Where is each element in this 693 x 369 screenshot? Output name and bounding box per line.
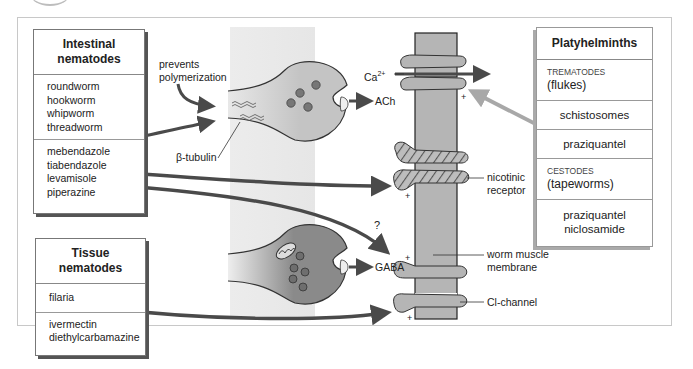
- list-item: levamisole: [47, 172, 144, 186]
- trematode-drug-item: praziquantel: [537, 130, 652, 159]
- intestinal-nematodes-title: Intestinal nematodes: [34, 30, 144, 75]
- list-item: tiabendazole: [47, 159, 144, 173]
- intestinal-worm-list: roundworm hookworm whipworm threadworm: [34, 75, 144, 140]
- ach-label: ACh: [375, 95, 395, 108]
- tissue-nematodes-box: Tissue nematodes filaria ivermectin diet…: [35, 238, 146, 356]
- list-item: roundworm: [47, 80, 144, 94]
- intestinal-nematodes-box: Intestinal nematodes roundworm hookworm …: [33, 29, 145, 214]
- tissue-nematodes-title: Tissue nematodes: [36, 239, 145, 284]
- list-item: hookworm: [47, 94, 144, 108]
- beta-tubulin-label: β-tubulin: [176, 151, 216, 164]
- cestodes-section: CESTODES (tapeworms): [537, 159, 652, 200]
- plus-sign: +: [405, 190, 410, 203]
- nicotinic-receptor-label: nicotinic receptor: [487, 171, 526, 197]
- ivermectin-arrow: [105, 308, 385, 319]
- tissue-drug-list: ivermectin diethylcarbamazine: [36, 313, 145, 355]
- trematodes-section: TREMATODES (flukes): [537, 60, 652, 101]
- tissue-worm-list: filaria: [36, 284, 145, 313]
- list-item: piperazine: [47, 186, 144, 200]
- gaba-neuron: [228, 225, 347, 304]
- prevents-polymerization-label: prevents polymerization: [159, 58, 227, 84]
- plus-sign: +: [405, 252, 410, 265]
- list-item: praziquantel: [537, 208, 652, 222]
- muscle-membrane: [394, 33, 469, 319]
- schistosomes-item: schistosomes: [537, 101, 652, 130]
- calcium-label: Ca2+: [364, 67, 385, 84]
- platyhelminths-title: Platyhelminths: [537, 28, 652, 60]
- list-item: whipworm: [47, 107, 144, 121]
- plus-sign: +: [461, 91, 466, 104]
- list-item: ivermectin: [49, 318, 145, 332]
- cestode-drug-list: praziquantel niclosamide: [537, 200, 652, 246]
- list-item: mebendazole: [47, 145, 144, 159]
- intestinal-drug-list: mebendazole tiabendazole levamisole pipe…: [34, 140, 144, 213]
- plus-sign: +: [407, 312, 412, 325]
- platyhelminths-box: Platyhelminths TREMATODES (flukes) schis…: [536, 27, 653, 247]
- worm-muscle-membrane-label: worm muscle membrane: [487, 248, 549, 274]
- list-item: diethylcarbamazine: [49, 331, 145, 345]
- question-mark-label: ?: [374, 219, 380, 232]
- list-item: niclosamide: [537, 222, 652, 236]
- list-item: filaria: [49, 291, 145, 305]
- list-item: threadworm: [47, 121, 144, 135]
- ach-neuron: [228, 62, 347, 141]
- cl-channel-label: Cl-channel: [487, 296, 537, 309]
- prevents-arrow: [178, 84, 210, 106]
- gaba-label: GABA: [375, 261, 404, 274]
